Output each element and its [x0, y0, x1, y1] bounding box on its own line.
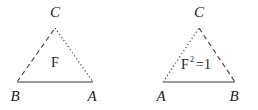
left-triangle-apex-label: C [50, 4, 61, 20]
left-triangle-base-right-label: A [86, 88, 97, 104]
right-triangle-interior-label-equality: =1 [196, 57, 211, 72]
left-triangle-base-left-label: B [10, 88, 19, 104]
geometry-figure: C B A F C A B F 2 =1 [0, 0, 258, 110]
right-triangle-interior-label-base: F [181, 57, 189, 72]
right-triangle-apex-label: C [194, 4, 205, 20]
figure-background [0, 0, 258, 110]
right-triangle-base-left-label: A [155, 88, 166, 104]
right-triangle-interior-label-exponent: 2 [190, 55, 194, 64]
left-triangle-interior-label: F [51, 55, 59, 70]
right-triangle-base-right-label: B [229, 88, 238, 104]
